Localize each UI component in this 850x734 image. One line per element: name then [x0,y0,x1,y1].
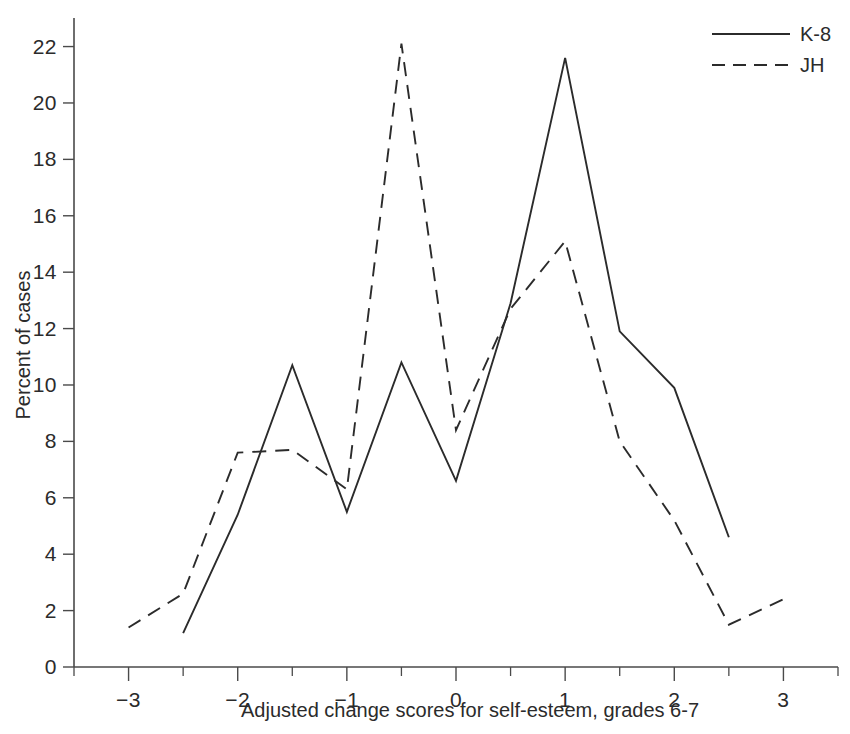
y-tick-label: 0 [45,655,57,678]
y-tick-label: 14 [33,260,57,283]
y-tick-label: 12 [33,317,57,340]
line-chart: 0246810121416182022−3−2−10123 K-8JH Adju… [0,0,850,734]
legend-label-k-8: K-8 [800,23,831,45]
y-tick-label: 20 [33,91,57,114]
y-tick-label: 4 [45,542,57,565]
data-series [129,44,784,633]
x-axis-title: Adjusted change scores for self-esteem, … [241,699,699,721]
y-tick-label: 6 [45,486,57,509]
chart-page: 0246810121416182022−3−2−10123 K-8JH Adju… [0,0,850,734]
axis-ticks [63,47,838,681]
y-tick-label: 18 [33,147,57,170]
chart-legend: K-8JH [712,23,831,76]
legend-label-jh: JH [800,54,824,76]
axis-tick-labels: 0246810121416182022−3−2−10123 [33,35,790,711]
y-tick-label: 8 [45,429,57,452]
y-tick-label: 10 [33,373,57,396]
y-axis-title: Percent of cases [12,271,34,420]
x-tick-label: 3 [777,688,789,711]
y-tick-label: 22 [33,35,57,58]
y-tick-label: 2 [45,599,57,622]
y-tick-label: 16 [33,204,57,227]
axes [74,18,838,667]
series-line-k-8 [183,58,729,633]
x-tick-label: −3 [116,688,141,711]
